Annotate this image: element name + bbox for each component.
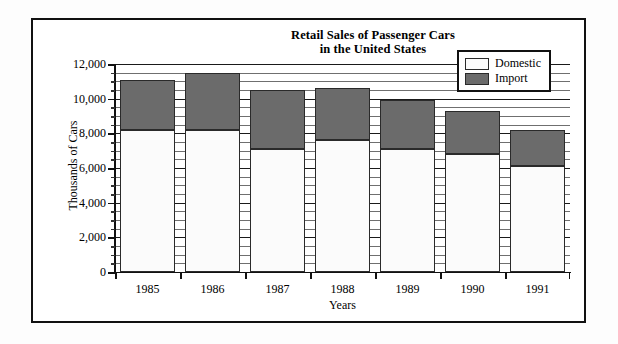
- bar-segment-import: [185, 73, 241, 130]
- x-tick: [310, 272, 312, 279]
- y-tick-minor: [111, 255, 115, 257]
- bar-group: [120, 64, 176, 272]
- y-tick-label: 0: [100, 265, 106, 280]
- legend-item-import: Import: [465, 71, 541, 86]
- y-tick-minor: [111, 125, 115, 127]
- bar-segment-domestic: [250, 149, 306, 272]
- x-tick: [375, 272, 377, 279]
- bar-group: [185, 64, 241, 272]
- y-tick-major: [108, 64, 115, 66]
- bar-segment-import: [510, 130, 566, 166]
- x-tick-label: 1989: [396, 282, 420, 297]
- x-tick: [180, 272, 182, 279]
- y-tick-minor: [111, 90, 115, 92]
- x-tick-label: 1988: [331, 282, 355, 297]
- figure-frame: Retail Sales of Passenger Cars in the Un…: [31, 18, 586, 323]
- y-tick-minor: [111, 151, 115, 153]
- bar-group: [445, 64, 501, 272]
- x-tick-label: 1986: [201, 282, 225, 297]
- plot-area: 02,0004,0006,0008,00010,00012,000 198519…: [115, 64, 570, 272]
- bar-segment-import: [120, 80, 176, 130]
- y-tick-minor: [111, 107, 115, 109]
- y-tick-label: 8,000: [79, 126, 106, 141]
- y-tick-minor: [111, 194, 115, 196]
- bar-segment-import: [250, 90, 306, 149]
- x-axis-line: [114, 272, 571, 274]
- y-tick-label: 2,000: [79, 230, 106, 245]
- y-tick-minor: [111, 116, 115, 118]
- bar-group: [380, 64, 436, 272]
- bar-segment-import: [380, 100, 436, 149]
- y-tick-minor: [111, 177, 115, 179]
- y-tick-label: 4,000: [79, 195, 106, 210]
- x-tick: [440, 272, 442, 279]
- bar-group: [315, 64, 371, 272]
- y-tick-major: [108, 237, 115, 239]
- y-tick-minor: [111, 159, 115, 161]
- bar-group: [510, 64, 566, 272]
- x-tick: [245, 272, 247, 279]
- y-tick-label: 6,000: [79, 161, 106, 176]
- bar-group: [250, 64, 306, 272]
- chart-screenshot: Retail Sales of Passenger Cars in the Un…: [0, 0, 618, 344]
- bar-segment-domestic: [510, 166, 566, 272]
- y-tick-minor: [111, 220, 115, 222]
- x-tick-label: 1987: [266, 282, 290, 297]
- x-tick: [569, 272, 571, 279]
- x-tick-label: 1985: [136, 282, 160, 297]
- y-tick-minor: [111, 229, 115, 231]
- legend-label-domestic: Domestic: [495, 56, 541, 71]
- bar-segment-domestic: [445, 154, 501, 272]
- y-tick-minor: [111, 246, 115, 248]
- bar-segment-domestic: [185, 130, 241, 272]
- y-tick-minor: [111, 81, 115, 83]
- y-tick-minor: [111, 185, 115, 187]
- bar-segment-import: [315, 88, 371, 140]
- bar-segment-import: [445, 111, 501, 154]
- y-tick-major: [108, 99, 115, 101]
- x-tick: [505, 272, 507, 279]
- chart-title-line-1: Retail Sales of Passenger Cars: [291, 28, 455, 42]
- y-tick-minor: [111, 142, 115, 144]
- y-tick-minor: [111, 211, 115, 213]
- x-tick: [115, 272, 117, 279]
- legend-label-import: Import: [495, 71, 528, 86]
- y-tick-major: [108, 133, 115, 135]
- bar-series-container: [115, 64, 570, 272]
- y-tick-major: [108, 168, 115, 170]
- y-tick-label: 10,000: [73, 91, 106, 106]
- y-tick-major: [108, 272, 115, 274]
- x-tick-label: 1990: [461, 282, 485, 297]
- legend-swatch-import: [465, 73, 489, 85]
- legend-swatch-domestic: [465, 58, 489, 70]
- x-axis-title: Years: [115, 298, 570, 313]
- legend-item-domestic: Domestic: [465, 56, 541, 71]
- y-tick-label: 12,000: [73, 57, 106, 72]
- x-tick-label: 1991: [526, 282, 550, 297]
- bar-segment-domestic: [120, 130, 176, 272]
- bar-segment-domestic: [380, 149, 436, 272]
- y-tick-minor: [111, 73, 115, 75]
- y-tick-major: [108, 203, 115, 205]
- y-tick-minor: [111, 263, 115, 265]
- legend: Domestic Import: [457, 50, 551, 92]
- bar-segment-domestic: [315, 140, 371, 272]
